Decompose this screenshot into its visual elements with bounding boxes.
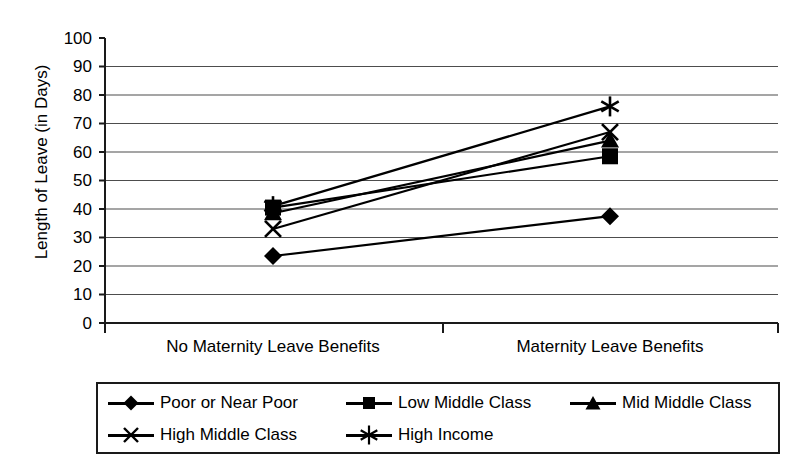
legend-entry-high-middle-class[interactable]: High Middle Class (108, 419, 297, 451)
legend-label: High Middle Class (160, 425, 297, 445)
legend-label: Low Middle Class (398, 393, 531, 413)
series-high-income (264, 96, 618, 216)
legend-label: Mid Middle Class (622, 393, 751, 413)
triangle-marker-icon (570, 391, 616, 415)
legend-label: Poor or Near Poor (160, 393, 298, 413)
x-tick-label-0: No Maternity Leave Benefits (143, 338, 403, 356)
diamond-marker-icon (264, 247, 282, 265)
legend-entry-high-income[interactable]: High Income (346, 419, 493, 451)
asterisk-marker-icon (346, 423, 392, 447)
legend-entry-low-middle-class[interactable]: Low Middle Class (346, 387, 531, 419)
square-marker-icon (346, 391, 392, 415)
series-low-middle-class (265, 148, 618, 215)
diamond-marker-icon (108, 391, 154, 415)
series-line-segment (273, 106, 610, 206)
square-marker-icon (602, 148, 618, 164)
axes (99, 38, 778, 333)
legend-label: High Income (398, 425, 493, 445)
x-tick-label-1: Maternity Leave Benefits (490, 338, 730, 356)
chart-legend: Poor or Near Poor Low Middle Class (96, 382, 780, 454)
series-line-segment (273, 156, 610, 207)
plot-area (0, 0, 808, 380)
x-marker-icon (265, 221, 281, 237)
asterisk-marker-icon (601, 96, 618, 116)
legend-entry-poor-or-near-poor[interactable]: Poor or Near Poor (108, 387, 298, 419)
chart-figure: Length of Leave (in Days) 100 90 80 70 6… (0, 0, 808, 474)
series-line-segment (273, 216, 610, 256)
x-marker-icon (108, 423, 154, 447)
legend-entry-mid-middle-class[interactable]: Mid Middle Class (570, 387, 751, 419)
diamond-marker-icon (601, 207, 619, 225)
